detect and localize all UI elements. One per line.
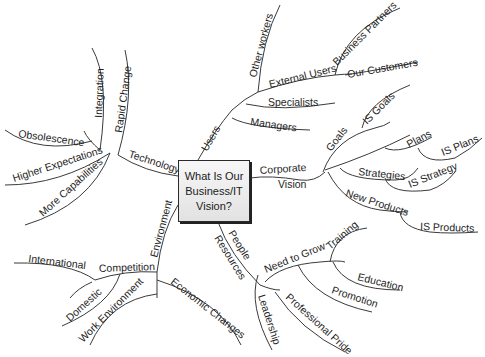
- label-economic-changes: Economic Changes: [169, 275, 248, 341]
- central-topic-line-1: What Is Our: [185, 169, 244, 184]
- label-education: Education: [357, 270, 405, 293]
- label-business-partners: Business Partners: [330, 0, 399, 67]
- economic-changes-branch: [157, 280, 241, 345]
- central-topic-line-3: Vision?: [185, 199, 244, 214]
- label-vision: Vision: [278, 178, 307, 190]
- label-professional-pride: Professional Pride: [284, 291, 355, 357]
- label-our-customers: Our Customers: [346, 56, 418, 80]
- central-topic-line-2: Business/IT: [185, 184, 244, 199]
- label-obsolescence: Obsolescence: [18, 127, 86, 148]
- label-is-products: IS Products: [420, 220, 475, 234]
- label-environment: Environment: [147, 198, 174, 258]
- label-leadership: Leadership: [256, 293, 284, 346]
- label-plans: Plans: [404, 127, 433, 150]
- central-topic-box: What Is Our Business/IT Vision?: [178, 160, 250, 222]
- label-rapid-change: Rapid Change: [112, 65, 133, 133]
- label-is-goals: IS Goals: [360, 89, 397, 126]
- label-international: International: [28, 252, 87, 271]
- label-corporate: Corporate: [259, 161, 307, 176]
- label-is-strategy: IS Strategy: [406, 159, 459, 190]
- label-managers: Managers: [250, 115, 298, 133]
- label-strategies: Strategies: [358, 165, 406, 182]
- label-is-plans: IS Plans: [439, 132, 480, 158]
- central-topic-text: What Is Our Business/IT Vision?: [185, 169, 244, 214]
- label-specialists: Specialists: [268, 96, 318, 108]
- label-integration: Integration: [92, 68, 106, 118]
- label-users: Users: [198, 123, 222, 153]
- label-new-products: New Products: [344, 186, 410, 218]
- label-training: Training: [324, 218, 361, 251]
- label-competition: Competition: [99, 260, 156, 274]
- label-external-users: External Users: [268, 62, 338, 90]
- label-need-to-grow: Need to Grow: [262, 239, 327, 275]
